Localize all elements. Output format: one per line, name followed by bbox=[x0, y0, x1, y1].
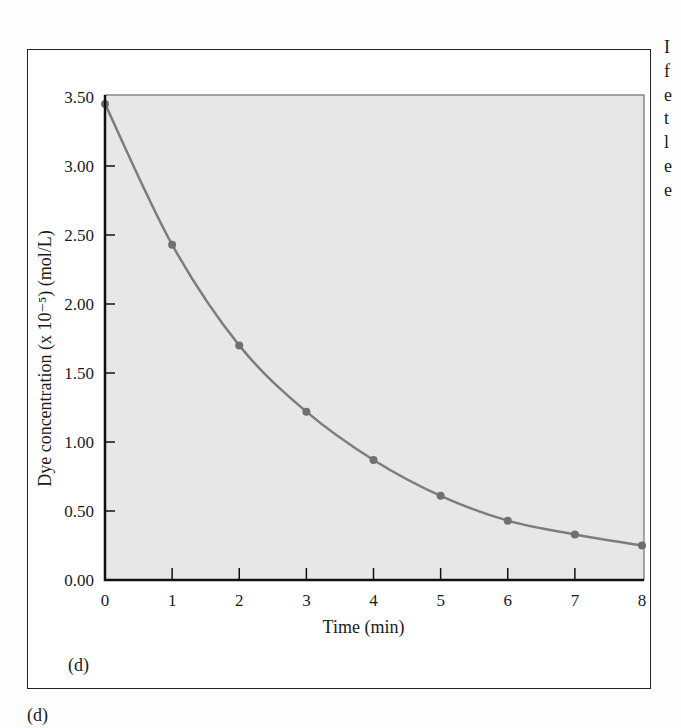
y-tick-label: 1.00 bbox=[64, 433, 94, 452]
cutoff-letter: e bbox=[664, 179, 681, 203]
panel-label-outer: (d) bbox=[27, 705, 48, 726]
x-tick-label: 7 bbox=[571, 591, 580, 610]
x-tick-label: 2 bbox=[235, 591, 244, 610]
data-point bbox=[638, 542, 646, 550]
x-tick-label: 3 bbox=[302, 591, 311, 610]
cutoff-letter: I bbox=[664, 36, 681, 60]
x-tick-label: 4 bbox=[369, 591, 378, 610]
plot-area bbox=[105, 95, 644, 580]
data-point bbox=[235, 341, 243, 349]
data-point bbox=[504, 517, 512, 525]
cutoff-letter: e bbox=[664, 155, 681, 179]
y-axis-title: Dye concentration (x 10⁻⁵) (mol/L) bbox=[35, 230, 56, 487]
y-tick-label: 2.00 bbox=[64, 295, 94, 314]
data-point bbox=[302, 408, 310, 416]
dye-concentration-chart: 0.000.501.001.502.002.503.003.50 0123456… bbox=[0, 0, 681, 728]
y-tick-label: 3.50 bbox=[64, 88, 94, 107]
x-axis-title: Time (min) bbox=[323, 617, 405, 638]
x-tick-label: 8 bbox=[638, 591, 647, 610]
page: 0.000.501.001.502.002.503.003.50 0123456… bbox=[0, 0, 681, 728]
y-tick-label: 0.50 bbox=[64, 502, 94, 521]
panel-label-inner: (d) bbox=[68, 655, 89, 676]
data-point bbox=[370, 456, 378, 464]
y-tick-label: 0.00 bbox=[64, 571, 94, 590]
x-tick-label: 0 bbox=[101, 591, 110, 610]
cutoff-letter: f bbox=[664, 60, 681, 84]
y-tick-label: 2.50 bbox=[64, 226, 94, 245]
data-point bbox=[571, 530, 579, 538]
x-tick-label: 5 bbox=[436, 591, 445, 610]
x-tick-label: 6 bbox=[504, 591, 513, 610]
cutoff-letter: e bbox=[664, 84, 681, 108]
y-tick-label: 3.00 bbox=[64, 157, 94, 176]
data-point bbox=[168, 241, 176, 249]
cutoff-letter: l bbox=[664, 131, 681, 155]
x-tick-label: 1 bbox=[168, 591, 177, 610]
cutoff-letter: t bbox=[664, 107, 681, 131]
cutoff-body-text: Ifetlee bbox=[664, 36, 681, 203]
y-tick-label: 1.50 bbox=[64, 364, 94, 383]
data-point bbox=[437, 492, 445, 500]
